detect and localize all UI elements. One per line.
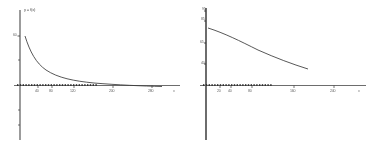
plot-panel-left: y = f(x) 60 40 80 120 200 280 x [0,0,186,148]
x-tick-label-right-80: 80 [248,89,252,93]
plot-panel-right: 95 85 65 40 20 40 80 160 240 x [186,0,372,148]
x-tick-label-right-40: 40 [228,89,232,93]
y-tick-label-right-65: 65 [200,40,204,44]
x-tick-label-left-80: 80 [49,89,53,93]
x-tick-label-left-200: 200 [109,89,114,93]
x-axis-name-left: x [173,89,175,93]
x-tick-label-left-280: 280 [148,89,153,93]
x-tick-label-right-160: 160 [290,89,295,93]
plot-right-svg [186,0,372,148]
decay-curve-left [25,36,162,87]
y-tick-label-right-40: 40 [201,61,205,65]
x-tick-label-left-120: 120 [70,89,75,93]
x-tick-label-left-40: 40 [35,89,39,93]
y-tick-label-right-95: 95 [202,7,206,11]
plot-title-left: y = f(x) [24,8,35,12]
x-axis-name-right: x [358,89,360,93]
x-tick-label-right-20: 20 [217,89,221,93]
y-tick-label-right-85: 85 [201,17,205,21]
figure-container: y = f(x) 60 40 80 120 200 280 x 95 [0,0,372,148]
decay-curve-right [208,28,308,69]
x-tick-label-right-240: 240 [330,89,335,93]
y-tick-label-left-60: 60 [13,33,17,37]
plot-left-svg [0,0,186,148]
